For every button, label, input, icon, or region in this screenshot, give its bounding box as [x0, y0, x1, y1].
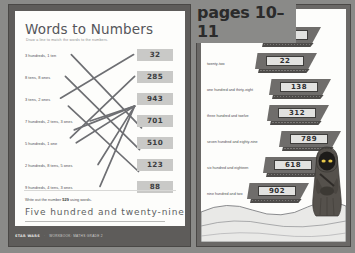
word-label: 3 hundreds, 1 ten — [25, 53, 56, 58]
number-word: twenty-two — [207, 62, 225, 66]
sandcrawler-tracks — [250, 199, 302, 204]
sandcrawler-row: three hundred and twelve 312 — [201, 105, 346, 129]
sandcrawler-tracks — [272, 95, 324, 100]
task-prompt-before: Write out the number — [25, 197, 62, 202]
number-chip: 510 — [137, 137, 173, 149]
number-word: one hundred and thirty-eight — [207, 88, 253, 92]
sandcrawler-row: twenty-two 22 — [201, 53, 346, 77]
task-prompt: Write out the number 529 using words. — [25, 197, 92, 202]
answer-underline — [25, 221, 165, 222]
left-page-frame: Words to Numbers Draw a line to match th… — [8, 4, 191, 247]
number-word: nine hundred and two — [207, 192, 242, 196]
number-chip: 701 — [137, 115, 173, 127]
sandcrawler: 22 — [255, 53, 317, 75]
number-word: six hundred and eighteen — [207, 166, 248, 170]
sandcrawler-tracks — [270, 121, 322, 126]
footer-line: WORKBOOK: MATHS GRADE 2 — [49, 234, 103, 238]
word-label: 7 hundreds, 2 tens, 3 ones — [25, 119, 72, 124]
book-scan: Words to Numbers Draw a line to match th… — [0, 0, 355, 253]
footer-separator: · — [44, 234, 45, 238]
sandcrawler-number: 789 — [290, 134, 328, 144]
section-divider — [24, 190, 176, 191]
jawa-eye-right — [328, 160, 332, 163]
sandcrawler-tracks — [262, 43, 314, 48]
sandcrawler-number: 138 — [280, 82, 318, 92]
sandcrawler-number: 312 — [278, 108, 316, 118]
number-chip: 943 — [137, 93, 173, 105]
number-word: seven hundred and eighty-nine — [207, 140, 258, 144]
word-label: 5 hundreds, 1 one — [25, 141, 57, 146]
pages-banner: pages 10–11 — [196, 2, 296, 43]
task-answer: Five hundred and twenty-nine — [25, 207, 185, 217]
sandcrawler-row: one hundred and thirty-eight 138 — [201, 79, 346, 103]
sandcrawler: 138 — [269, 79, 331, 101]
number-chip: 285 — [137, 71, 173, 83]
word-label: 2 hundreds, 8 tens, 5 ones — [25, 163, 72, 168]
brand-label: STAR WARS — [15, 234, 40, 238]
right-page: Write the numbers in the sandcrawlers. f… — [201, 9, 346, 242]
sandcrawler-tracks — [258, 69, 310, 74]
page-footer: STAR WARS · WORKBOOK: MATHS GRADE 2 — [15, 229, 185, 242]
jawa-eye-left — [322, 160, 326, 163]
left-page: Words to Numbers Draw a line to match th… — [15, 11, 185, 226]
sandcrawler-number: 902 — [258, 186, 296, 196]
jawa-character — [310, 144, 344, 218]
number-chip: 32 — [137, 49, 173, 61]
number-chip: 123 — [137, 159, 173, 171]
sandcrawler: 312 — [267, 105, 329, 127]
sandcrawler: 902 — [247, 183, 309, 205]
number-word: three hundred and twelve — [207, 114, 249, 118]
word-label: 8 tens, 8 ones — [25, 75, 50, 80]
word-label: 3 tens, 2 ones — [25, 97, 50, 102]
sandcrawler-number: 618 — [274, 160, 312, 170]
task-prompt-after: using words. — [69, 197, 92, 202]
sandcrawler-number: 22 — [266, 56, 304, 66]
